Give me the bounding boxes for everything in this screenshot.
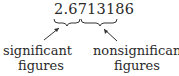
nonsignificant-brace bbox=[81, 19, 117, 26]
nonsignificant-label-line2: figures bbox=[114, 59, 160, 73]
right-arrowhead bbox=[104, 29, 108, 34]
nonsignificant-label-line1: nonsignificant bbox=[93, 44, 179, 58]
significant-label-line1: significant bbox=[3, 44, 72, 58]
significant-label-line2: figures bbox=[18, 59, 64, 73]
significant-brace bbox=[54, 19, 80, 26]
